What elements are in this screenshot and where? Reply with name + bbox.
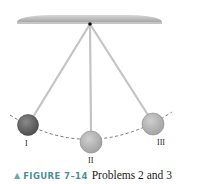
string-III (90, 24, 148, 115)
pendulum-bob-II (80, 131, 102, 153)
figure-number: FIGURE 7–14 (23, 171, 88, 181)
string-I (33, 24, 90, 117)
pendulum-diagram: I II III (0, 0, 198, 184)
position-label-II: II (88, 156, 94, 165)
position-label-III: III (157, 138, 165, 147)
caption-text: Problems 2 and 3 (92, 169, 172, 181)
string-II (90, 24, 91, 131)
position-label-I: I (25, 139, 28, 148)
pendulum-bob-I (18, 115, 39, 136)
caption-triangle-icon: ▲ (14, 171, 20, 180)
ceiling-support (17, 15, 162, 22)
pendulum-bob-III (142, 113, 164, 135)
pivot-point (88, 22, 92, 26)
figure-caption: ▲FIGURE 7–14Problems 2 and 3 (14, 168, 198, 182)
